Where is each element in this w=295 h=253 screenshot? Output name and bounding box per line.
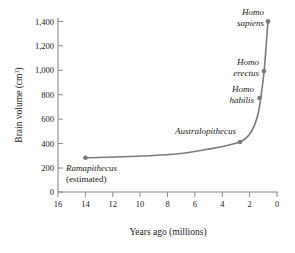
- x-axis-title: Years ago (millions): [129, 227, 206, 238]
- annotation-homo-sapiens: Homo sapiens: [237, 7, 264, 28]
- y-axis-ticks: [58, 21, 63, 192]
- x-tick-6: 6: [193, 199, 197, 209]
- x-tick-0: 0: [275, 199, 279, 209]
- y-tick-0: 0: [50, 187, 54, 197]
- data-point-ramapithecus: [83, 156, 88, 161]
- y-axis-tick-labels: 1,400 1,200 1,000 800 600 400 200 0: [35, 17, 54, 198]
- y-tick-400: 400: [41, 139, 54, 149]
- data-point-homo-sapiens: [266, 19, 271, 24]
- y-tick-800: 800: [41, 90, 54, 100]
- y-tick-600: 600: [41, 114, 54, 124]
- label-homo-erectus-genus: Homo: [236, 57, 259, 67]
- y-axis-title: Brain volume (cm3): [14, 67, 25, 142]
- data-point-homo-erectus: [262, 69, 267, 74]
- annotation-ramapithecus: Ramapithecus (estimated): [65, 163, 117, 184]
- label-australopithecus: Australopithecus: [174, 126, 236, 136]
- x-axis-tick-labels: 16 14 12 10 8 6 4 2 0: [54, 199, 279, 209]
- data-point-australopithecus: [238, 140, 243, 145]
- y-tick-1400: 1,400: [35, 17, 54, 27]
- x-tick-16: 16: [54, 199, 63, 209]
- y-tick-1000: 1,000: [35, 65, 54, 75]
- x-tick-10: 10: [136, 199, 145, 209]
- data-point-homo-habilis: [257, 96, 262, 101]
- x-tick-8: 8: [165, 199, 169, 209]
- label-ramapithecus-estimated: (estimated): [66, 174, 106, 184]
- y-axis-title-close: ): [14, 67, 25, 70]
- annotation-homo-erectus: Homo erectus: [233, 57, 259, 78]
- label-homo-habilis-genus: Homo: [231, 84, 254, 94]
- label-homo-habilis-species: habilis: [229, 95, 254, 105]
- y-axis-title-text: Brain volume (cm: [14, 73, 25, 143]
- label-homo-sapiens-genus: Homo: [241, 7, 264, 17]
- annotation-homo-habilis: Homo habilis: [229, 84, 254, 105]
- annotation-australopithecus: Australopithecus: [174, 126, 236, 136]
- chart-svg: 1,400 1,200 1,000 800 600 400 200 0 16 1…: [0, 0, 295, 253]
- x-tick-4: 4: [220, 199, 225, 209]
- x-axis-ticks: [58, 192, 277, 197]
- y-tick-200: 200: [41, 163, 54, 173]
- x-tick-2: 2: [247, 199, 251, 209]
- x-tick-14: 14: [81, 199, 90, 209]
- svg-text:Brain volume (cm3): Brain volume (cm3): [14, 67, 25, 142]
- y-tick-1200: 1,200: [35, 41, 54, 51]
- label-homo-sapiens-species: sapiens: [237, 18, 264, 28]
- brain-volume-chart: 1,400 1,200 1,000 800 600 400 200 0 16 1…: [0, 0, 295, 253]
- x-tick-12: 12: [109, 199, 118, 209]
- label-homo-erectus-species: erectus: [233, 68, 259, 78]
- label-ramapithecus: Ramapithecus: [65, 163, 117, 173]
